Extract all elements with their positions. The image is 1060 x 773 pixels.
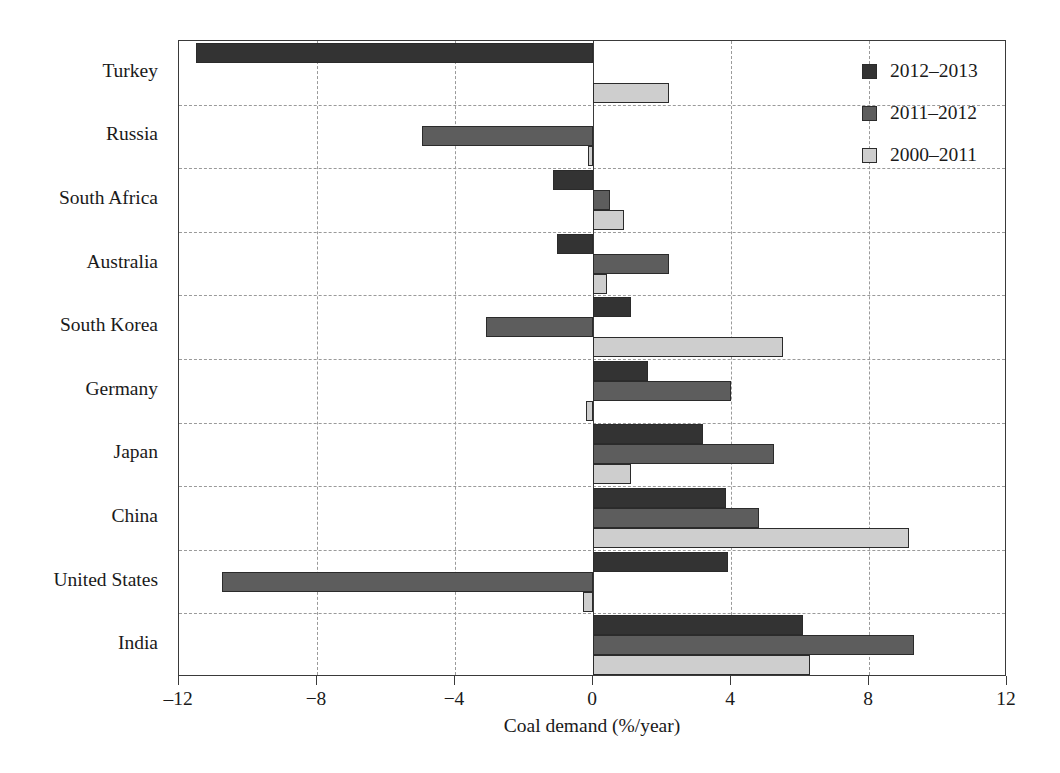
gridline-horizontal: [179, 550, 1005, 551]
x-axis-tick-label: 12: [976, 688, 1036, 710]
gridline-horizontal: [179, 295, 1005, 296]
y-axis-label-united-states: United States: [0, 570, 168, 590]
bar: [593, 381, 731, 401]
x-axis-tick: [592, 676, 593, 685]
legend-label: 2012–2013: [890, 60, 978, 82]
bar: [593, 274, 607, 294]
gridline-horizontal: [179, 486, 1005, 487]
x-axis: ‒12−8−404812: [178, 676, 1006, 716]
y-axis-label-russia: Russia: [0, 124, 168, 144]
x-axis-tick: [178, 676, 179, 685]
bar: [422, 126, 593, 146]
x-axis-tick: [730, 676, 731, 685]
bar: [593, 444, 774, 464]
x-axis-tick: [868, 676, 869, 685]
bar: [593, 464, 631, 484]
gridline-horizontal: [179, 613, 1005, 614]
x-axis-tick-label: ‒12: [148, 688, 208, 710]
y-axis-label-germany: Germany: [0, 379, 168, 399]
legend-item: 2000–2011: [862, 134, 1042, 176]
bar: [196, 43, 593, 63]
bar: [222, 572, 593, 592]
legend-item: 2011–2012: [862, 92, 1042, 134]
bar: [593, 254, 669, 274]
y-axis-category-labels: TurkeyRussiaSouth AfricaAustraliaSouth K…: [0, 40, 168, 676]
bar: [593, 552, 728, 572]
y-axis-label-india: India: [0, 633, 168, 653]
bar: [593, 83, 669, 103]
bar: [588, 146, 593, 166]
bar: [593, 508, 759, 528]
bar: [593, 190, 610, 210]
x-axis-tick-label: −4: [424, 688, 484, 710]
gridline-vertical: [731, 41, 732, 675]
bar: [553, 170, 593, 190]
gridline-horizontal: [179, 423, 1005, 424]
legend-label: 2011–2012: [890, 102, 977, 124]
bar: [593, 615, 803, 635]
legend: 2012–20132011–20122000–2011: [862, 50, 1042, 176]
y-axis-label-japan: Japan: [0, 442, 168, 462]
x-axis-tick-label: 0: [562, 688, 622, 710]
x-axis-tick: [316, 676, 317, 685]
legend-swatch-icon: [862, 106, 877, 121]
y-axis-label-south-africa: South Africa: [0, 188, 168, 208]
bar: [593, 488, 726, 508]
y-axis-label-china: China: [0, 506, 168, 526]
legend-label: 2000–2011: [890, 144, 977, 166]
x-axis-tick-label: −8: [286, 688, 346, 710]
y-axis-label-turkey: Turkey: [0, 61, 168, 81]
bar: [486, 317, 593, 337]
bar: [557, 234, 593, 254]
legend-swatch-icon: [862, 64, 877, 79]
bar: [593, 424, 703, 444]
bar: [593, 297, 631, 317]
bar: [593, 528, 909, 548]
x-axis-tick-label: 8: [838, 688, 898, 710]
bar: [593, 361, 648, 381]
x-axis-tick: [454, 676, 455, 685]
coal-demand-bar-chart: TurkeyRussiaSouth AfricaAustraliaSouth K…: [0, 0, 1060, 773]
bar: [593, 210, 624, 230]
bar: [593, 655, 810, 675]
y-axis-label-south-korea: South Korea: [0, 315, 168, 335]
zero-axis-line: [593, 41, 594, 675]
legend-item: 2012–2013: [862, 50, 1042, 92]
bar: [593, 337, 783, 357]
bar: [593, 635, 914, 655]
x-axis-tick: [1006, 676, 1007, 685]
y-axis-label-australia: Australia: [0, 252, 168, 272]
bar: [586, 401, 593, 421]
x-axis-title: Coal demand (%/year): [178, 715, 1006, 737]
legend-swatch-icon: [862, 148, 877, 163]
x-axis-tick-label: 4: [700, 688, 760, 710]
gridline-horizontal: [179, 359, 1005, 360]
bar: [583, 592, 593, 612]
